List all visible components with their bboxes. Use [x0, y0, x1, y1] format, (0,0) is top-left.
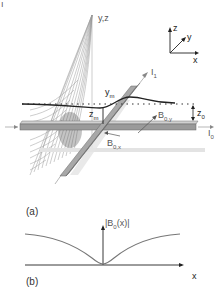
b0x-label: B0,x	[107, 139, 121, 150]
minimum-trajectory-curve	[22, 97, 175, 108]
panel-b-plot	[25, 225, 184, 267]
b0-magnitude-axis-label: |B0(x)|	[105, 219, 130, 230]
wire-i0-label: I0	[208, 129, 214, 140]
axis-z-label: z	[173, 24, 178, 33]
z0-label: z0	[197, 109, 205, 120]
ym-label: ym	[105, 88, 115, 99]
wire-i1-label: I1	[151, 68, 157, 79]
wire-i0	[5, 121, 214, 130]
axis-y-label: y	[187, 33, 192, 42]
x-axis-label: x	[192, 272, 197, 281]
zm-label: zm	[89, 110, 99, 121]
b0y-label: B0,y	[158, 111, 172, 122]
b0-magnitude-curve	[25, 234, 180, 264]
axis-x-label: x	[193, 56, 198, 65]
corner-mark: ı	[1, 0, 4, 9]
b0x-arrow	[106, 133, 120, 136]
panel-a-label: (a)	[26, 206, 38, 217]
plane-label: y,z	[98, 14, 109, 23]
panel-b-label: (b)	[26, 276, 38, 287]
